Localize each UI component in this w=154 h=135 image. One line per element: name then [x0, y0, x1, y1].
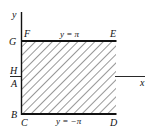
bottom-boundary-label: y = −π	[55, 116, 82, 126]
point-label-B: B	[11, 109, 17, 120]
x-axis-label: x	[139, 77, 145, 88]
hatched-region	[22, 41, 116, 114]
point-label-D: D	[109, 117, 118, 128]
y-axis-label: y	[11, 9, 17, 20]
top-boundary-label: y = π	[59, 29, 80, 39]
region-diagram: y x y = π y = −π G F E H A B C D	[0, 0, 154, 135]
point-label-H: H	[9, 65, 18, 76]
point-label-C: C	[21, 117, 28, 128]
point-label-F: F	[23, 28, 31, 39]
point-label-A: A	[10, 78, 18, 89]
point-label-G: G	[9, 36, 16, 47]
point-label-E: E	[109, 28, 116, 39]
